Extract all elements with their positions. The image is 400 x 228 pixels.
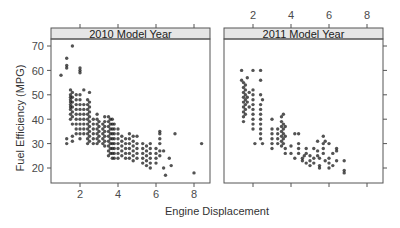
data-point bbox=[282, 113, 285, 116]
strip-label-2010: 2010 Model Year bbox=[89, 28, 172, 40]
data-point bbox=[103, 135, 106, 138]
data-point bbox=[71, 110, 74, 113]
data-point bbox=[259, 79, 262, 82]
data-point bbox=[305, 152, 308, 155]
data-point bbox=[75, 103, 78, 106]
data-point bbox=[116, 132, 119, 135]
data-point bbox=[116, 137, 119, 140]
data-point bbox=[251, 108, 254, 111]
data-point bbox=[75, 98, 78, 101]
data-point bbox=[276, 137, 279, 140]
data-point bbox=[270, 137, 273, 140]
data-point bbox=[92, 118, 95, 121]
data-point bbox=[251, 93, 254, 96]
data-point bbox=[343, 171, 346, 174]
data-point bbox=[128, 142, 131, 145]
data-point bbox=[141, 157, 144, 160]
data-point bbox=[71, 96, 74, 99]
data-point bbox=[324, 140, 327, 143]
data-point bbox=[173, 132, 176, 135]
data-point bbox=[312, 161, 315, 164]
data-point bbox=[145, 154, 148, 157]
data-point bbox=[103, 144, 106, 147]
data-point bbox=[168, 157, 171, 160]
data-point bbox=[251, 113, 254, 116]
data-point bbox=[71, 44, 74, 47]
data-point bbox=[259, 103, 262, 106]
data-point bbox=[113, 127, 116, 130]
data-point bbox=[282, 142, 285, 145]
data-point bbox=[276, 127, 279, 130]
data-point bbox=[128, 137, 131, 140]
data-point bbox=[97, 140, 100, 143]
data-point bbox=[65, 137, 68, 140]
data-point bbox=[141, 152, 144, 155]
data-point bbox=[97, 125, 100, 128]
data-point bbox=[103, 120, 106, 123]
data-point bbox=[324, 159, 327, 162]
data-point bbox=[149, 157, 152, 160]
data-point bbox=[124, 142, 127, 145]
data-point bbox=[246, 96, 249, 99]
data-point bbox=[327, 157, 330, 160]
data-point bbox=[116, 147, 119, 150]
data-point bbox=[248, 91, 251, 94]
data-point bbox=[164, 174, 167, 177]
data-point bbox=[128, 152, 131, 155]
data-point bbox=[246, 76, 249, 79]
data-point bbox=[92, 127, 95, 130]
data-point bbox=[113, 147, 116, 150]
data-point bbox=[88, 110, 91, 113]
data-point bbox=[259, 137, 262, 140]
data-point bbox=[259, 69, 262, 72]
data-point bbox=[120, 135, 123, 138]
data-point bbox=[293, 132, 296, 135]
data-point bbox=[113, 122, 116, 125]
data-point bbox=[128, 157, 131, 160]
data-point bbox=[251, 127, 254, 130]
data-point bbox=[158, 132, 161, 135]
data-point bbox=[253, 142, 256, 145]
panel-2010: 2010 Model Year bbox=[51, 28, 210, 184]
data-point bbox=[135, 147, 138, 150]
data-point bbox=[248, 105, 251, 108]
data-point bbox=[113, 142, 116, 145]
data-point bbox=[82, 132, 85, 135]
data-point bbox=[192, 171, 195, 174]
data-point bbox=[141, 147, 144, 150]
y-axis-left: 20 30 40 50 60 70 bbox=[32, 40, 44, 174]
data-point bbox=[113, 137, 116, 140]
data-point bbox=[322, 135, 325, 138]
data-point bbox=[327, 161, 330, 164]
data-point bbox=[65, 66, 68, 69]
y-axis-title: Fuel Efficiency (MPG) bbox=[14, 65, 26, 172]
data-point bbox=[71, 135, 74, 138]
data-point bbox=[251, 88, 254, 91]
data-point bbox=[276, 142, 279, 145]
data-point bbox=[116, 142, 119, 145]
data-point bbox=[103, 125, 106, 128]
data-point bbox=[244, 88, 247, 91]
data-point bbox=[103, 130, 106, 133]
data-point bbox=[59, 74, 62, 77]
data-point bbox=[124, 157, 127, 160]
data-point bbox=[259, 127, 262, 130]
data-point bbox=[132, 159, 135, 162]
data-point bbox=[251, 122, 254, 125]
data-point bbox=[82, 127, 85, 130]
data-point bbox=[141, 161, 144, 164]
data-point bbox=[318, 157, 321, 160]
data-point bbox=[78, 93, 81, 96]
y-tick-label: 70 bbox=[32, 40, 44, 52]
data-point bbox=[327, 142, 330, 145]
data-point bbox=[244, 108, 247, 111]
data-point bbox=[149, 142, 152, 145]
data-point bbox=[120, 140, 123, 143]
y-tick-label: 30 bbox=[32, 138, 44, 150]
y-tick-label: 50 bbox=[32, 89, 44, 101]
data-point bbox=[75, 108, 78, 111]
data-point bbox=[132, 149, 135, 152]
data-point bbox=[71, 91, 74, 94]
data-point bbox=[124, 152, 127, 155]
data-point bbox=[261, 142, 264, 145]
